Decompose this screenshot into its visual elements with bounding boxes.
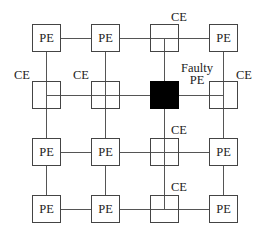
- pe-label: PE: [98, 31, 113, 46]
- pe-box-r3c1: PE: [91, 195, 120, 223]
- pe-label: PE: [216, 202, 231, 217]
- row-link-0: [46, 38, 224, 39]
- pe-label: PE: [216, 31, 231, 46]
- ce-label-r0c2: CE: [171, 11, 187, 23]
- pe-label: PE: [39, 145, 54, 160]
- row-link-2: [46, 152, 224, 153]
- ce-label-r1c3: CE: [236, 69, 252, 81]
- faulty-label-line2: PE: [179, 74, 215, 86]
- col-link-1: [105, 38, 106, 209]
- col-link-0: [46, 38, 47, 209]
- pe-label: PE: [98, 202, 113, 217]
- ce-label-r1c0: CE: [14, 69, 30, 81]
- ce-box-r1c0: [32, 81, 61, 109]
- pe-label: PE: [39, 202, 54, 217]
- row-link-1: [46, 95, 224, 96]
- pe-box-r3c0: PE: [32, 195, 61, 223]
- pe-box-r0c0: PE: [32, 24, 61, 52]
- pe-box-r3c3: PE: [209, 195, 238, 223]
- col-link-2: [164, 38, 165, 209]
- ce-box-r3c2: [150, 195, 179, 223]
- row-link-3: [46, 209, 224, 210]
- pe-box-r2c1: PE: [91, 138, 120, 166]
- pe-label: PE: [39, 31, 54, 46]
- ce-label-r2c2: CE: [171, 124, 187, 136]
- pe-label: PE: [98, 145, 113, 160]
- pe-box-r0c1: PE: [91, 24, 120, 52]
- ce-box-r1c1: [91, 81, 120, 109]
- pe-label: PE: [216, 145, 231, 160]
- pe-box-r2c3: PE: [209, 138, 238, 166]
- faulty-pe-box: [150, 81, 179, 109]
- pe-box-r0c3: PE: [209, 24, 238, 52]
- ce-box-r0c2: [150, 24, 179, 52]
- col-link-3: [223, 38, 224, 209]
- ce-box-r2c2: [150, 138, 179, 166]
- ce-label-r1c1: CE: [73, 69, 89, 81]
- pe-box-r2c0: PE: [32, 138, 61, 166]
- ce-label-r3c2: CE: [171, 181, 187, 193]
